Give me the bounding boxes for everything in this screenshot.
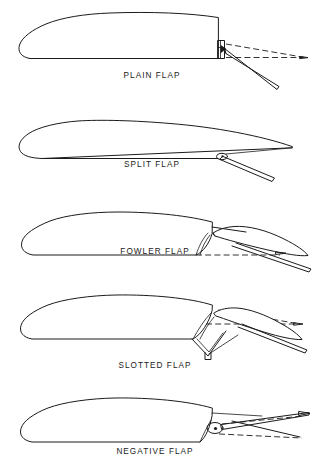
flap-cross-brace (232, 421, 300, 437)
panel-label-slotted-flap: SLOTTED FLAP (118, 361, 191, 370)
panel-slotted-flap: SLOTTED FLAP (20, 295, 307, 370)
panel-fowler-flap: FOWLER FLAP (21, 212, 311, 272)
panel-plain-flap: PLAIN FLAP (19, 12, 308, 89)
airfoil-outline (19, 12, 218, 58)
airfoil-outline (20, 398, 212, 442)
split-plate-flap (220, 157, 275, 182)
airfoil-outline (19, 120, 292, 158)
flap-types-diagram: PLAIN FLAP SPLIT FLAP FOWLER FLAP (0, 0, 321, 465)
panel-label-split-flap: SPLIT FLAP (124, 160, 180, 169)
flap-upper-edge (212, 413, 262, 416)
panel-negative-flap: NEGATIVE FLAP (20, 398, 310, 456)
panel-label-negative-flap: NEGATIVE FLAP (116, 447, 193, 456)
upward-deflected-flap (221, 413, 309, 430)
panel-label-fowler-flap: FOWLER FLAP (120, 247, 189, 256)
pivot-dot (214, 427, 217, 430)
panel-split-flap: SPLIT FLAP (19, 120, 292, 181)
panel-label-plain-flap: PLAIN FLAP (124, 71, 181, 80)
dashed-undeflected-line (226, 44, 305, 58)
linkage-brace (209, 335, 238, 354)
deflected-flap (225, 49, 280, 90)
airfoil-outline (20, 295, 212, 339)
undeflected-tip (294, 323, 303, 325)
